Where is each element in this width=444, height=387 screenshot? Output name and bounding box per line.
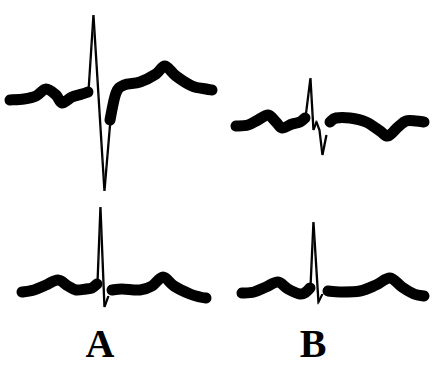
ecg-figure: A B (0, 0, 444, 387)
ecg-panel-b-top (230, 60, 444, 190)
panel-label-a: A (70, 324, 130, 364)
ecg-panel-a-top (0, 0, 230, 200)
ecg-trace-b-bottom (230, 205, 444, 325)
panel-label-b: B (283, 324, 343, 364)
ecg-panel-a-bottom (0, 195, 230, 325)
ecg-trace-a-bottom (0, 195, 230, 325)
ecg-panel-b-bottom (230, 205, 444, 325)
ecg-trace-a-top (0, 0, 230, 200)
ecg-trace-b-top (230, 60, 444, 190)
